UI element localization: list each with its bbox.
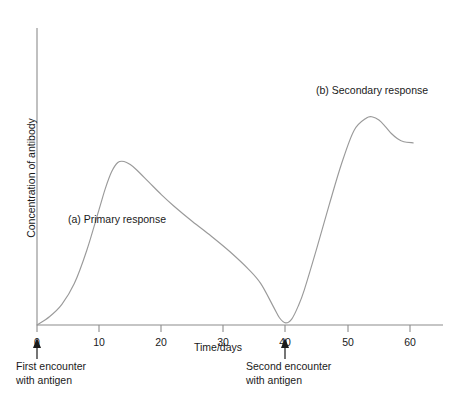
annotation-primary-response: (a) Primary response xyxy=(68,213,166,226)
x-tick-label-10: 10 xyxy=(93,336,105,348)
antibody-response-chart: 0 10 20 30 40 50 60 Time/days Concentrat… xyxy=(0,0,450,394)
first-encounter-caption-line1: First encounter xyxy=(16,360,86,374)
chart-plot-area: 0 10 20 30 40 50 60 Time/days xyxy=(0,0,450,394)
x-axis-ticks xyxy=(37,325,410,332)
second-encounter-caption-line1: Second encounter xyxy=(246,360,331,374)
annotation-secondary-response: (b) Secondary response xyxy=(316,84,428,97)
y-axis-title: Concentration of antibody xyxy=(25,98,37,258)
x-axis-title: Time/days xyxy=(194,341,242,353)
second-encounter-caption-line2: with antigen xyxy=(246,374,331,388)
first-encounter-caption-line2: with antigen xyxy=(16,374,86,388)
first-encounter-caption: First encounter with antigen xyxy=(16,360,86,387)
x-tick-label-50: 50 xyxy=(342,336,354,348)
x-tick-label-20: 20 xyxy=(155,336,167,348)
second-encounter-caption: Second encounter with antigen xyxy=(246,360,331,387)
x-tick-label-60: 60 xyxy=(404,336,416,348)
